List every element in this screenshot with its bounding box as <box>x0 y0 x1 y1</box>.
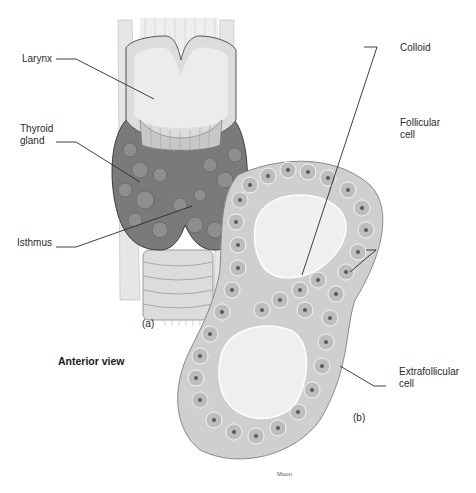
label-colloid: Colloid <box>400 42 431 54</box>
panel-label-b: (b) <box>353 412 365 424</box>
view-caption: Anterior view <box>58 355 125 367</box>
label-larynx: Larynx <box>22 53 52 65</box>
trachea <box>143 250 213 326</box>
label-isthmus: Isthmus <box>17 237 52 249</box>
label-thyroid-gland: Thyroid gland <box>20 123 53 147</box>
label-extrafollicular-cell: Extrafollicular cell <box>399 366 459 390</box>
colloid-lower <box>219 326 307 418</box>
label-follicular-cell: Follicular cell <box>400 117 440 141</box>
thyroid-illustration <box>0 0 476 493</box>
artist-signature: Moon <box>277 468 292 480</box>
panel-label-a: (a) <box>142 318 154 330</box>
